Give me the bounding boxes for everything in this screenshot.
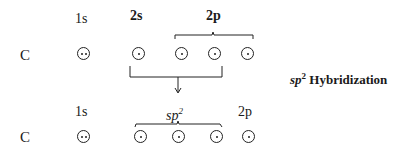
bracket-mixing	[130, 66, 222, 77]
orbital-1s-ground	[77, 47, 90, 60]
orbital-2p-ground	[175, 47, 188, 60]
label-1s-ground: 1s	[75, 12, 87, 26]
label-sp2-hybrid: sp2	[166, 104, 183, 123]
orbital-2p-ground	[241, 47, 254, 60]
label-2p-ground: 2p	[206, 9, 221, 23]
element-label-hybrid: C	[20, 130, 30, 144]
hybridization-title: sp2 Hybridization	[290, 69, 387, 87]
label-2s-ground: 2s	[130, 9, 142, 23]
label-1s-hybrid: 1s	[75, 105, 87, 119]
sp2-hybridization-diagram: 1s 2s 2p C sp2 Hybridization 1s sp2 2p C	[0, 0, 394, 154]
orbital-sp2-hybrid	[210, 130, 223, 143]
orbital-2p-hybrid	[242, 130, 255, 143]
orbital-1s-hybrid	[77, 130, 90, 143]
brace-2p	[175, 32, 253, 39]
element-label-ground: C	[20, 48, 30, 62]
orbital-2s-ground	[132, 47, 145, 60]
orbital-2p-ground	[208, 47, 221, 60]
label-2p-hybrid: 2p	[238, 105, 252, 119]
orbital-sp2-hybrid	[172, 130, 185, 143]
orbital-sp2-hybrid	[134, 130, 147, 143]
